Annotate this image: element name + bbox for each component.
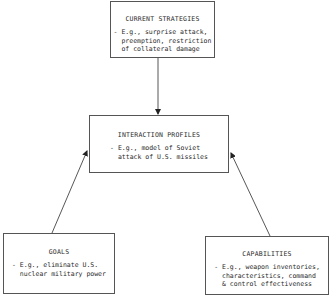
node-title: INTERACTION PROFILES [90, 131, 228, 139]
node-description: - E.g., weapon inventories, characterist… [214, 263, 320, 289]
arrow-goals-to-interaction [52, 151, 87, 233]
arrow-capabilities-to-interaction [231, 153, 270, 236]
node-interaction-profiles: INTERACTION PROFILES - E.g., model of So… [89, 115, 229, 173]
node-description: - E.g., eliminate U.S. nuclear military … [12, 261, 106, 278]
node-goals: GOALS - E.g., eliminate U.S. nuclear mil… [3, 233, 115, 294]
node-title: GOALS [4, 248, 114, 256]
node-description: - E.g., model of Soviet attack of U.S. m… [110, 144, 208, 161]
node-current-strategies: CURRENT STRATEGIES - E.g., surprise atta… [110, 1, 215, 58]
node-capabilities: CAPABILITIES - E.g., weapon inventories,… [205, 236, 329, 295]
node-title: CAPABILITIES [206, 250, 328, 258]
node-title: CURRENT STRATEGIES [111, 15, 214, 23]
node-description: - E.g., surprise attack, preemption, res… [114, 28, 212, 54]
